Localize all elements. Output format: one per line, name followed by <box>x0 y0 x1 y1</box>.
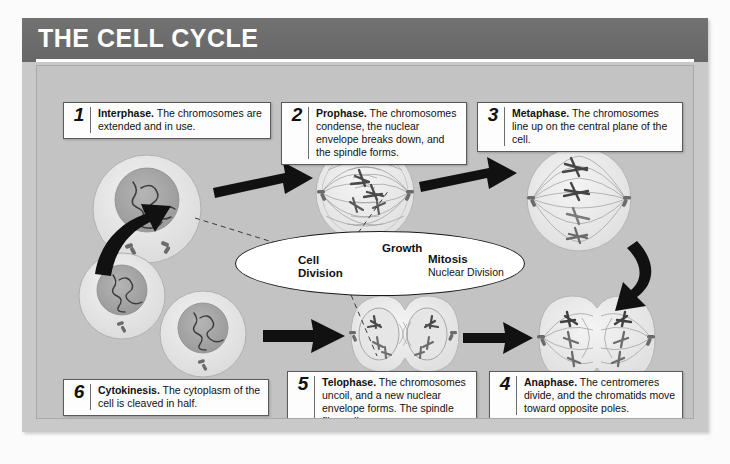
caption-text: Prophase. The chromosomes condense, the … <box>316 107 460 159</box>
caption-number: 1 <box>68 107 91 133</box>
label-mitosis: Mitosis <box>428 253 468 265</box>
telophase-cell <box>349 296 459 372</box>
arrow-interphase-to-prophase <box>213 162 313 198</box>
figure-title-bar: THE CELL CYCLE <box>22 18 708 62</box>
caption-number: 6 <box>68 384 91 410</box>
label-cell-division-line2: Division <box>298 267 343 279</box>
arrow-anaphase-to-telophase <box>463 322 533 354</box>
caption-term: Interphase. <box>98 107 154 119</box>
caption-box-prophase: 2 Prophase. The chromosomes condense, th… <box>281 102 467 165</box>
caption-text: Telophase. The chromosomes uncoil, and a… <box>322 376 470 419</box>
caption-term: Cytokinesis. <box>98 384 160 396</box>
arrow-metaphase-to-anaphase <box>615 241 651 311</box>
anaphase-cell <box>537 296 655 380</box>
caption-term: Anaphase. <box>524 376 577 388</box>
label-growth: Growth <box>382 242 422 254</box>
label-cell-division: Cell Division <box>298 254 343 280</box>
caption-number: 3 <box>482 107 505 146</box>
center-ellipse: Growth Cell Division Mitosis Nuclear Div… <box>235 231 525 296</box>
caption-box-interphase: 1 Interphase. The chromosomes are extend… <box>63 102 271 139</box>
caption-term: Telophase. <box>322 376 376 388</box>
figure-title: THE CELL CYCLE <box>38 24 258 53</box>
metaphase-cell <box>527 147 631 251</box>
caption-text: Cytokinesis. The cytoplasm of the cell i… <box>98 384 262 410</box>
caption-number: 4 <box>494 376 517 415</box>
title-underline-rule <box>36 59 694 62</box>
caption-number: 5 <box>292 376 315 419</box>
caption-box-cytokinesis: 6 Cytokinesis. The cytoplasm of the cell… <box>63 379 269 416</box>
caption-box-metaphase: 3 Metaphase. The chromosomes line up on … <box>477 102 683 152</box>
caption-box-telophase: 5 Telophase. The chromosomes uncoil, and… <box>287 371 477 419</box>
caption-box-anaphase: 4 Anaphase. The centromeres divide, and … <box>489 371 683 419</box>
caption-term: Prophase. <box>316 107 367 119</box>
caption-text: Metaphase. The chromosomes line up on th… <box>512 107 676 146</box>
caption-number: 2 <box>286 107 309 159</box>
caption-text: Anaphase. The centromeres divide, and th… <box>524 376 676 415</box>
caption-text: Interphase. The chromosomes are extended… <box>98 107 264 133</box>
arrow-telophase-to-cytokinesis <box>263 319 345 353</box>
label-nuclear-division: Nuclear Division <box>428 266 504 278</box>
cell-cycle-figure: THE CELL CYCLE <box>22 18 708 432</box>
caption-term: Metaphase. <box>512 107 569 119</box>
label-cell-division-line1: Cell <box>298 254 319 266</box>
diagram-panel: Growth Cell Division Mitosis Nuclear Div… <box>36 65 694 419</box>
